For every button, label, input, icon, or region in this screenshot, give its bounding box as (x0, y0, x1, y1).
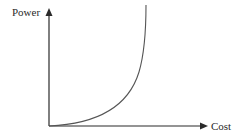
power-cost-curve (49, 5, 146, 126)
x-axis-arrow-icon (200, 123, 208, 130)
y-axis-arrow-icon (46, 8, 53, 16)
chart-canvas (0, 0, 238, 136)
x-axis-label: Cost (211, 121, 231, 132)
y-axis-label: Power (12, 7, 40, 18)
